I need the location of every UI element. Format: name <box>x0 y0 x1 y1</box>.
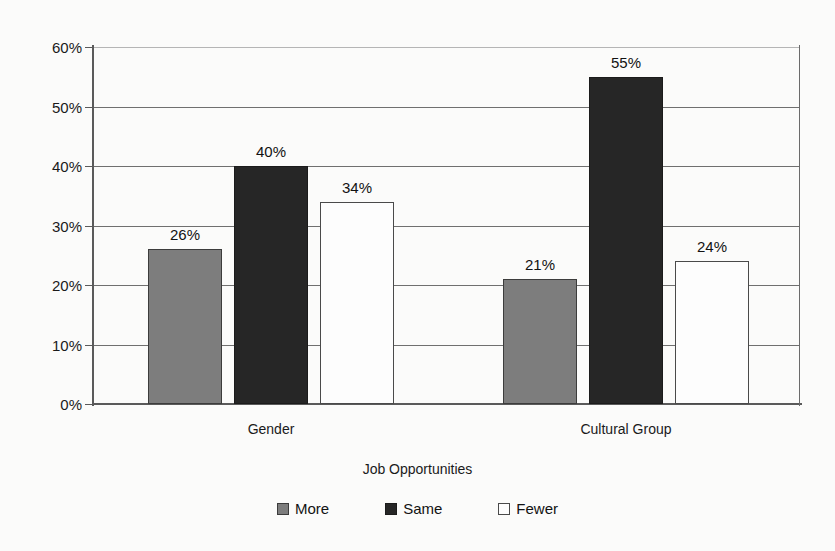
legend-item-same[interactable]: Same <box>385 500 442 517</box>
bar-value-label: 55% <box>589 55 663 70</box>
y-axis-tick <box>85 166 92 167</box>
legend-label: More <box>295 500 329 517</box>
category-label-cultural-group: Cultural Group <box>473 421 779 437</box>
y-axis-tick <box>85 226 92 227</box>
legend-item-fewer[interactable]: Fewer <box>498 500 558 517</box>
y-axis-tick <box>85 285 92 286</box>
y-axis-label: 20% <box>12 278 82 293</box>
bar-gender-more <box>148 249 222 404</box>
chart-legend: MoreSameFewer <box>0 500 835 517</box>
plot-area: 26%40%34%21%55%24% <box>92 47 800 404</box>
y-axis-tick <box>85 404 92 405</box>
y-axis-label: 40% <box>12 159 82 174</box>
bar-gender-fewer <box>320 202 394 404</box>
bar-cultural-group-more <box>503 279 577 404</box>
bar-gender-same <box>234 166 308 404</box>
y-axis-tick <box>85 47 92 48</box>
y-axis-label: 50% <box>12 100 82 115</box>
y-axis-label: 30% <box>12 219 82 234</box>
bar-cultural-group-fewer <box>675 261 749 404</box>
legend-item-more[interactable]: More <box>277 500 329 517</box>
bar-value-label: 40% <box>234 144 308 159</box>
bar-value-label: 26% <box>148 227 222 242</box>
legend-label: Fewer <box>516 500 558 517</box>
y-axis-tick <box>85 107 92 108</box>
bar-value-label: 21% <box>503 257 577 272</box>
y-axis-tick <box>85 345 92 346</box>
y-axis-label: 0% <box>12 397 82 412</box>
bar-value-label: 34% <box>320 180 394 195</box>
category-label-gender: Gender <box>118 421 424 437</box>
bar-cultural-group-same <box>589 77 663 404</box>
legend-label: Same <box>403 500 442 517</box>
legend-swatch-icon <box>277 503 289 515</box>
y-axis-label: 10% <box>12 338 82 353</box>
legend-swatch-icon <box>498 503 510 515</box>
x-axis-title: Job Opportunities <box>0 461 835 477</box>
bar-value-label: 24% <box>675 239 749 254</box>
legend-swatch-icon <box>385 503 397 515</box>
y-axis-label: 60% <box>12 40 82 55</box>
chart-figure: 0%10%20%30%40%50%60% 26%40%34%21%55%24% … <box>0 0 835 551</box>
